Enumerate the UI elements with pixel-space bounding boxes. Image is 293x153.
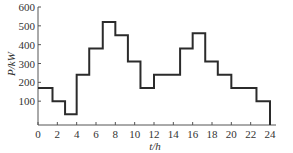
x-tick-label: 6 [93, 128, 99, 140]
x-tick-label: 20 [226, 128, 238, 140]
power-step-series [38, 22, 270, 125]
x-tick-label: 4 [74, 128, 80, 140]
y-axis-title: P/kW [5, 51, 17, 77]
x-tick-label: 2 [55, 128, 61, 140]
x-tick-label: 22 [245, 128, 256, 140]
x-tick-label: 14 [168, 128, 180, 140]
y-tick-label: 300 [19, 58, 36, 70]
x-tick-label: 12 [149, 128, 160, 140]
y-tick-label: 200 [19, 76, 36, 88]
x-tick-label: 16 [187, 128, 199, 140]
x-tick-label: 0 [35, 128, 41, 140]
y-tick-label: 400 [19, 39, 36, 51]
x-tick-label: 8 [113, 128, 119, 140]
x-tick-label: 18 [207, 128, 219, 140]
x-tick-label: 10 [129, 128, 141, 140]
step-chart: 100200300400500600 024681012141618202224… [0, 0, 293, 153]
y-tick-label: 500 [19, 20, 36, 32]
y-tick-label: 100 [19, 95, 36, 107]
x-axis-title: t/h [149, 140, 161, 152]
x-tick-label: 24 [265, 128, 277, 140]
y-tick-label: 600 [19, 1, 36, 13]
